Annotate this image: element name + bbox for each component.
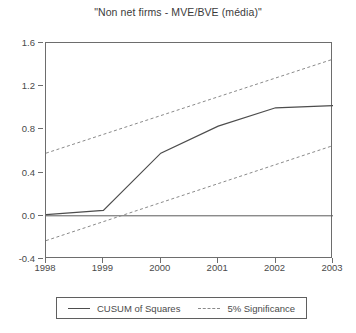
x-tick-mark — [217, 258, 218, 263]
y-tick-label: 1.2 — [22, 80, 35, 91]
series-line-2 — [46, 146, 333, 241]
x-tick-label: 2002 — [264, 262, 285, 273]
x-tick-mark — [102, 258, 103, 263]
dashed-line-icon — [198, 305, 220, 312]
y-tick-label: 0.8 — [22, 123, 35, 134]
x-tick-mark — [332, 258, 333, 263]
plot-area — [45, 42, 332, 258]
x-tick-mark — [45, 258, 46, 263]
y-tick-mark — [38, 42, 43, 43]
y-tick-label: 0.4 — [22, 166, 35, 177]
chart-title: "Non net firms - MVE/BVE (média)" — [0, 6, 356, 18]
x-tick-mark — [160, 258, 161, 263]
plot-lines — [46, 43, 333, 259]
y-tick-mark — [38, 85, 43, 86]
y-tick-mark — [38, 172, 43, 173]
chart-legend: CUSUM of Squares5% Significance — [56, 297, 307, 319]
y-tick-mark — [38, 128, 43, 129]
cusum-chart: "Non net firms - MVE/BVE (média)" 1.61.2… — [0, 0, 356, 333]
series-line-0 — [46, 106, 333, 215]
x-axis: 199819992000200120022003 — [0, 262, 356, 278]
legend-entry: CUSUM of Squares — [68, 303, 180, 314]
legend-entry: 5% Significance — [198, 303, 295, 314]
x-tick-label: 2000 — [149, 262, 170, 273]
x-tick-label: 1998 — [34, 262, 55, 273]
y-tick-label: 1.6 — [22, 37, 35, 48]
x-tick-mark — [275, 258, 276, 263]
x-tick-label: 1999 — [92, 262, 113, 273]
legend-label: 5% Significance — [227, 303, 295, 314]
y-tick-mark — [38, 215, 43, 216]
y-tick-mark — [38, 258, 43, 259]
x-tick-label: 2003 — [321, 262, 342, 273]
solid-line-icon — [68, 305, 90, 312]
legend-label: CUSUM of Squares — [97, 303, 180, 314]
y-tick-label: 0.0 — [22, 209, 35, 220]
x-tick-label: 2001 — [207, 262, 228, 273]
y-axis: 1.61.20.80.40.0-0.4 — [0, 42, 41, 258]
